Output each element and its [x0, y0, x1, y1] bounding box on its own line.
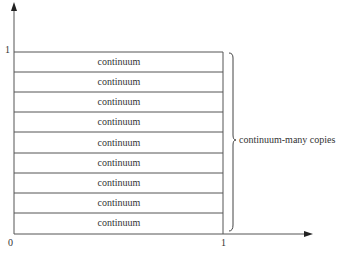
x-origin-label: 0 [8, 237, 13, 248]
brace-label: continuum-many copies [239, 134, 335, 145]
x-axis-arrow-icon [304, 231, 313, 237]
row-label: continuum [15, 92, 223, 112]
row-label: continuum [15, 112, 223, 132]
brace-icon [229, 53, 236, 231]
row-label: continuum [15, 52, 223, 72]
x-tick-1: 1 [221, 237, 226, 248]
y-tick-1: 1 [5, 44, 10, 55]
row-label: continuum [15, 153, 223, 173]
row-label: continuum [15, 133, 223, 153]
row-label: continuum [15, 173, 223, 193]
row-label: continuum [15, 213, 223, 233]
row-label: continuum [15, 72, 223, 92]
row-label: continuum [15, 193, 223, 213]
y-axis-arrow-icon [11, 2, 17, 11]
